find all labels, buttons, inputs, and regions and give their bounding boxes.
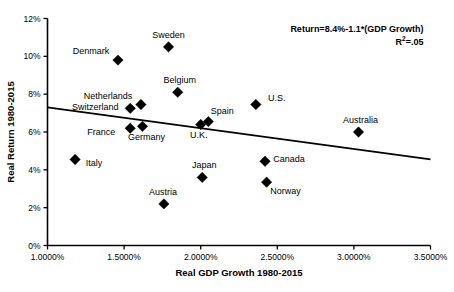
regression-equation: Return=8.4%-1.1*(GDP Growth) <box>290 24 423 34</box>
data-point: Germany <box>128 121 166 142</box>
data-point-marker <box>125 103 135 113</box>
y-tick-label: 8% <box>28 89 41 99</box>
data-point-marker <box>251 99 261 109</box>
data-point-marker <box>353 127 363 137</box>
data-point: Japan <box>192 160 217 182</box>
x-tick-label: 2.5000% <box>261 252 295 262</box>
x-tick-label: 1.5000% <box>107 252 141 262</box>
data-point: Italy <box>70 154 103 168</box>
r-squared-annotation: R2=.05 <box>396 35 424 47</box>
x-tick-label: 3.0000% <box>337 252 371 262</box>
data-point-label: France <box>87 127 115 137</box>
y-tick-label: 6% <box>28 127 41 137</box>
data-point-marker <box>159 199 169 209</box>
data-point-label: Netherlands <box>84 91 133 101</box>
data-point-label: Switzerland <box>72 102 119 112</box>
data-point-marker <box>137 121 147 131</box>
data-point-label: Spain <box>211 106 234 116</box>
y-tick-label: 12% <box>23 14 40 24</box>
data-point-marker <box>70 154 80 164</box>
data-point-marker <box>113 55 123 65</box>
y-tick-label: 0% <box>28 241 41 251</box>
data-point-label: Australia <box>343 115 378 125</box>
x-tick-label: 1.0000% <box>31 252 65 262</box>
data-point: Austria <box>149 187 177 209</box>
x-tick-label: 2.0000% <box>184 252 218 262</box>
data-point-marker <box>136 99 146 109</box>
data-point: Sweden <box>152 30 185 52</box>
data-point: U.S. <box>251 93 286 110</box>
plot-area: 0%2%4%6%8%10%12%1.0000%1.5000%2.0000%2.5… <box>0 0 454 292</box>
data-point-marker <box>173 87 183 97</box>
data-point-label: Germany <box>128 132 166 142</box>
data-point-label: Japan <box>192 160 217 170</box>
data-point: Switzerland <box>72 102 135 113</box>
data-point: Australia <box>343 115 378 137</box>
data-point: Canada <box>260 154 305 166</box>
data-point-label: Belgium <box>163 75 196 85</box>
y-axis-title: Real Return 1980-2015 <box>5 81 16 183</box>
data-point-label: Denmark <box>73 46 110 56</box>
data-point-label: Sweden <box>152 30 185 40</box>
y-tick-label: 10% <box>23 51 40 61</box>
data-point-label: Italy <box>86 158 103 168</box>
scatter-chart: 0%2%4%6%8%10%12%1.0000%1.5000%2.0000%2.5… <box>0 0 454 292</box>
x-axis-title: Real GDP Growth 1980-2015 <box>175 267 303 278</box>
data-point: Belgium <box>163 75 196 97</box>
data-point-marker <box>197 172 207 182</box>
y-tick-label: 2% <box>28 203 41 213</box>
data-point-label: U.K. <box>190 130 208 140</box>
data-point-label: U.S. <box>268 93 286 103</box>
data-point-marker <box>163 42 173 52</box>
data-point: Spain <box>203 106 234 127</box>
data-point-label: Norway <box>270 186 301 196</box>
data-point-label: Austria <box>149 187 177 197</box>
x-tick-label: 3.5000% <box>414 252 448 262</box>
y-tick-label: 4% <box>28 165 41 175</box>
data-point-marker <box>260 156 270 166</box>
data-point-label: Canada <box>273 154 305 164</box>
data-point: Denmark <box>73 46 123 65</box>
data-point: Norway <box>261 177 301 196</box>
